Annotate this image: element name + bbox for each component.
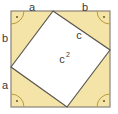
label-top-left-side: a <box>29 1 36 13</box>
pythagorean-theorem-figure: a b b a c c 2 <box>0 0 118 114</box>
label-top-right-side: b <box>82 1 88 13</box>
label-inner-area-base: c <box>59 53 65 65</box>
label-left-upper-side: b <box>2 32 8 44</box>
label-left-lower-side: a <box>2 79 9 91</box>
label-hypotenuse-c: c <box>76 29 82 41</box>
label-inner-area-exponent: 2 <box>66 51 70 58</box>
pythagorean-diagram-canvas: a b b a c c 2 <box>0 0 118 114</box>
